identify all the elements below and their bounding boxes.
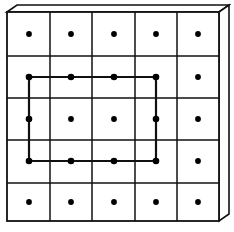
dot-r4-c2 [111,199,117,205]
dot-r3-c1 [68,158,75,165]
dot-r4-c4 [195,199,201,205]
grid-svg [0,0,234,232]
dot-r1-c2 [111,74,118,81]
dot-r3-c3 [153,158,160,165]
dot-r0-c0 [26,31,32,37]
dot-r3-c2 [111,158,118,165]
dot-r3-c0 [26,158,33,165]
dot-r1-c4 [195,74,201,80]
dot-r4-c1 [68,199,74,205]
slab-top-face [7,5,229,12]
dot-r0-c4 [195,31,201,37]
dot-r1-c1 [68,74,75,81]
dot-r2-c0 [26,116,33,123]
dot-r0-c3 [153,31,159,37]
dot-r0-c2 [111,31,117,37]
slab-right-face [219,5,229,221]
dot-r4-c0 [26,199,32,205]
dot-r2-c3 [153,116,160,123]
grid-diagram [0,0,234,232]
dot-r0-c1 [68,31,74,37]
dot-r2-c1 [68,116,74,122]
dot-r3-c4 [195,158,201,164]
dot-r1-c0 [26,74,33,81]
dot-r1-c3 [153,74,160,81]
dot-r4-c3 [153,199,159,205]
dot-r2-c4 [195,116,201,122]
dot-r2-c2 [111,116,117,122]
